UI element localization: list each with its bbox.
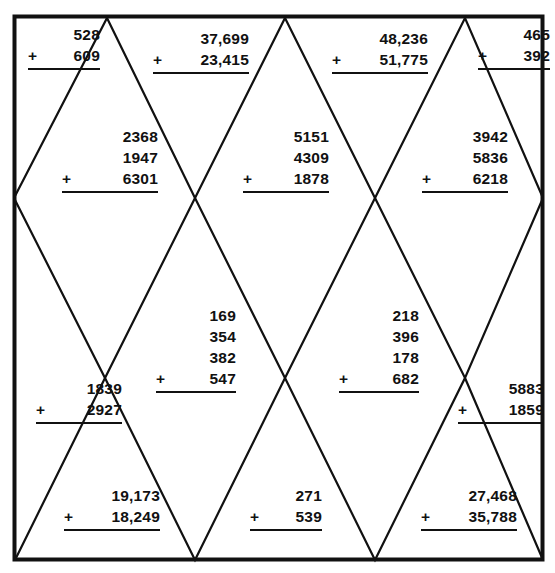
addend-row: 178 [339, 347, 419, 368]
addend-row: 528 [28, 24, 100, 45]
problem-stack: 19,173+18,249 [64, 485, 160, 531]
problem-stack: 271+539 [250, 485, 322, 531]
addition-problem: 1839+2927 [36, 378, 122, 424]
addend-value: 178 [393, 347, 419, 368]
addend-value: 18,249 [111, 506, 160, 527]
operator-symbol: + [421, 506, 436, 527]
addend-value: 3942 [473, 126, 508, 147]
answer-rule-line [332, 72, 428, 74]
answer-rule-line [422, 191, 508, 193]
operator-symbol: + [422, 168, 437, 189]
answer-rule-line [421, 529, 517, 531]
addend-value: 23,415 [200, 49, 249, 70]
addend-row: 27,468 [421, 485, 517, 506]
addend-row: +6218 [422, 168, 508, 189]
answer-rule-line [243, 191, 329, 193]
answer-rule-line [250, 529, 322, 531]
addition-problem: 218396178+682 [339, 305, 419, 393]
addend-row: 2368 [62, 126, 158, 147]
problem-stack: 37,699+23,415 [153, 28, 249, 74]
addition-problem: 169354382+547 [156, 305, 236, 393]
addition-problem: 528+609 [28, 24, 100, 70]
problem-stack: 27,468+35,788 [421, 485, 517, 531]
addend-row: +35,788 [421, 506, 517, 527]
problem-stack: 465+392 [478, 24, 550, 70]
problem-stack: 169354382+547 [156, 305, 236, 393]
addend-row: 4309 [243, 147, 329, 168]
addend-value: 1947 [123, 147, 158, 168]
addend-row: 5836 [422, 147, 508, 168]
operator-symbol: + [156, 368, 171, 389]
addend-value: 27,468 [468, 485, 517, 506]
problem-stack: 39425836+6218 [422, 126, 508, 193]
addend-row: 48,236 [332, 28, 428, 49]
addend-value: 218 [393, 305, 419, 326]
addend-value: 4309 [294, 147, 329, 168]
problem-stack: 528+609 [28, 24, 100, 70]
addend-value: 2368 [123, 126, 158, 147]
addend-value: 354 [210, 326, 236, 347]
addend-row: 382 [156, 347, 236, 368]
addend-row: 19,173 [64, 485, 160, 506]
addend-value: 6218 [473, 168, 508, 189]
addition-problem: 23681947+6301 [62, 126, 158, 193]
addend-value: 48,236 [379, 28, 428, 49]
addend-value: 539 [296, 506, 322, 527]
operator-symbol: + [153, 49, 168, 70]
addend-row: 1947 [62, 147, 158, 168]
operator-symbol: + [332, 49, 347, 70]
addend-row: 5883 [458, 378, 544, 399]
worksheet-border [15, 17, 543, 560]
addition-problem: 19,173+18,249 [64, 485, 160, 531]
addend-value: 528 [74, 24, 100, 45]
addend-row: 396 [339, 326, 419, 347]
addend-value: 1839 [87, 378, 122, 399]
addend-value: 169 [210, 305, 236, 326]
addend-value: 35,788 [468, 506, 517, 527]
addend-value: 19,173 [111, 485, 160, 506]
addend-row: +1878 [243, 168, 329, 189]
addition-problem: 39425836+6218 [422, 126, 508, 193]
answer-rule-line [28, 68, 100, 70]
addition-problem: 27,468+35,788 [421, 485, 517, 531]
answer-rule-line [339, 391, 419, 393]
addend-row: 465 [478, 24, 550, 45]
addend-row: +392 [478, 45, 550, 66]
addend-row: 37,699 [153, 28, 249, 49]
problem-stack: 48,236+51,775 [332, 28, 428, 74]
answer-rule-line [64, 529, 160, 531]
addend-value: 271 [296, 485, 322, 506]
addition-problem: 5883+1859 [458, 378, 544, 424]
addend-row: +2927 [36, 399, 122, 420]
addend-value: 5883 [509, 378, 544, 399]
addend-value: 1859 [509, 399, 544, 420]
addend-value: 396 [393, 326, 419, 347]
operator-symbol: + [243, 168, 258, 189]
addend-row: 271 [250, 485, 322, 506]
addend-value: 682 [393, 368, 419, 389]
problem-stack: 1839+2927 [36, 378, 122, 424]
addition-problem: 465+392 [478, 24, 550, 70]
addend-value: 382 [210, 347, 236, 368]
answer-rule-line [156, 391, 236, 393]
addend-value: 547 [210, 368, 236, 389]
addend-value: 6301 [123, 168, 158, 189]
addend-row: +539 [250, 506, 322, 527]
addend-row: 5151 [243, 126, 329, 147]
addition-problem: 37,699+23,415 [153, 28, 249, 74]
addend-row: 354 [156, 326, 236, 347]
answer-rule-line [478, 68, 550, 70]
addend-row: +18,249 [64, 506, 160, 527]
addend-row: +6301 [62, 168, 158, 189]
addend-value: 465 [524, 24, 550, 45]
operator-symbol: + [28, 45, 43, 66]
addend-row: +609 [28, 45, 100, 66]
worksheet-page: 528+60937,699+23,41548,236+51,775465+392… [0, 0, 555, 573]
operator-symbol: + [458, 399, 473, 420]
answer-rule-line [36, 422, 122, 424]
answer-rule-line [458, 422, 544, 424]
operator-symbol: + [250, 506, 265, 527]
problem-stack: 51514309+1878 [243, 126, 329, 193]
operator-symbol: + [339, 368, 354, 389]
addend-value: 1878 [294, 168, 329, 189]
